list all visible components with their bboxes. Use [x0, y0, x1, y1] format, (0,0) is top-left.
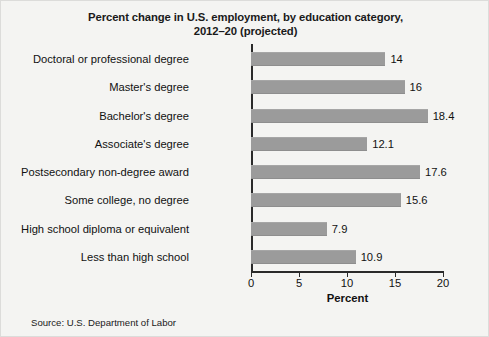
chart-row: Bachelor's degree18.4	[251, 102, 443, 130]
bar	[251, 193, 401, 207]
bar	[251, 109, 428, 123]
bar	[251, 222, 327, 236]
x-axis-title: Percent	[251, 292, 444, 304]
bar-value-label: 12.1	[372, 137, 394, 151]
plot-area: Doctoral or professional degree14Master'…	[251, 45, 443, 271]
bar	[251, 52, 385, 66]
chart-row: Associate's degree12.1	[251, 130, 443, 158]
category-label: Master's degree	[0, 73, 189, 101]
category-label: Bachelor's degree	[0, 102, 189, 130]
bar-value-label: 16	[410, 80, 422, 94]
bar-value-label: 18.4	[433, 109, 455, 123]
bar-value-label: 10.9	[361, 250, 383, 264]
chart-title-line-2: 2012–20 (projected)	[31, 24, 460, 38]
bar	[251, 165, 420, 179]
chart-row: Postsecondary non-degree award17.6	[251, 158, 443, 186]
x-axis-tick-label: 10	[332, 277, 362, 289]
x-axis-tick-label: 15	[380, 277, 410, 289]
category-label: Doctoral or professional degree	[0, 45, 189, 73]
bar	[251, 137, 367, 151]
chart-row: Master's degree16	[251, 73, 443, 101]
chart-row: High school diploma or equivalent7.9	[251, 215, 443, 243]
chart-row: Doctoral or professional degree14	[251, 45, 443, 73]
bar	[251, 80, 405, 94]
bar-value-label: 7.9	[332, 222, 348, 236]
bar-value-label: 17.6	[425, 165, 447, 179]
category-label: High school diploma or equivalent	[0, 215, 189, 243]
x-axis-tick-label: 20	[428, 277, 458, 289]
bar-value-label: 15.6	[406, 193, 428, 207]
chart-title-line-1: Percent change in U.S. employment, by ed…	[31, 10, 460, 24]
chart-row: Less than high school10.9	[251, 243, 443, 271]
category-label: Less than high school	[0, 243, 189, 271]
category-label: Some college, no degree	[0, 186, 189, 214]
chart-row: Some college, no degree15.6	[251, 186, 443, 214]
category-label: Postsecondary non-degree award	[0, 158, 189, 186]
bar-value-label: 14	[390, 52, 402, 66]
x-axis-tick-label: 0	[236, 277, 266, 289]
chart-title: Percent change in U.S. employment, by ed…	[31, 10, 460, 38]
chart-figure: Percent change in U.S. employment, by ed…	[0, 0, 489, 337]
bar	[251, 250, 356, 264]
x-axis-tick-label: 5	[284, 277, 314, 289]
category-label: Associate's degree	[0, 130, 189, 158]
source-note: Source: U.S. Department of Labor	[31, 317, 176, 328]
